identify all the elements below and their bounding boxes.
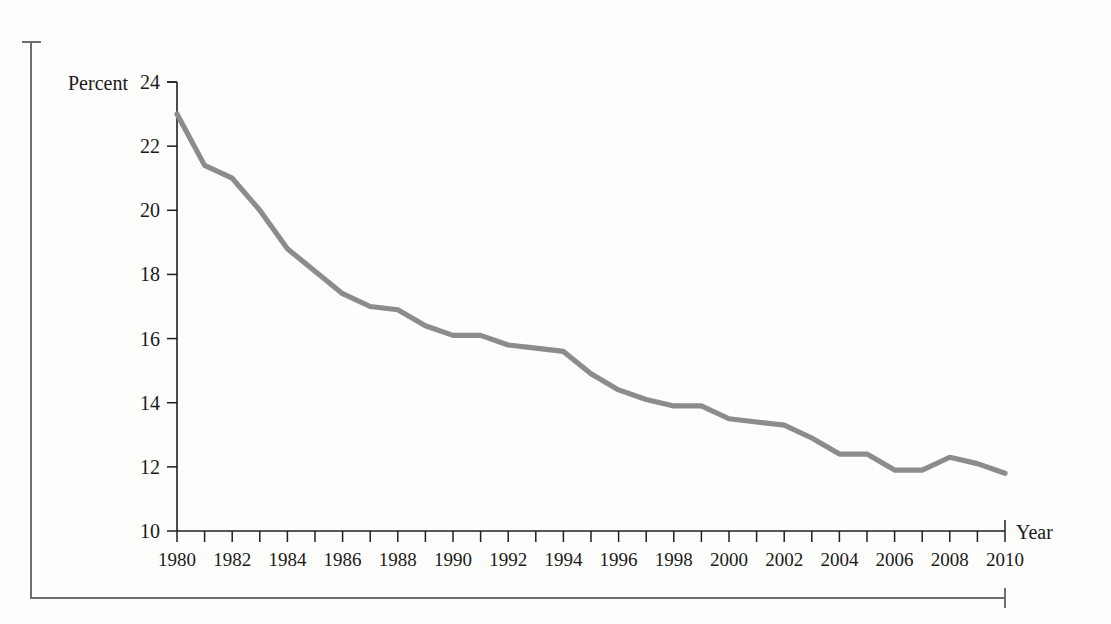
- x-tick-label: 2008: [931, 549, 969, 570]
- x-tick-label: 2000: [710, 549, 748, 570]
- x-tick-label: 1992: [489, 549, 527, 570]
- y-tick-label: 14: [140, 392, 160, 414]
- x-tick-label: 1996: [600, 549, 638, 570]
- y-tick-label: 18: [140, 263, 160, 285]
- line-chart: 1012141618202224 19801982198419861988199…: [0, 0, 1111, 624]
- x-tick-label: 1984: [268, 549, 307, 570]
- data-series-percent: [177, 114, 1005, 473]
- y-axis: 1012141618202224: [140, 71, 177, 542]
- x-tick-label: 1990: [434, 549, 472, 570]
- y-tick-label: 12: [140, 456, 160, 478]
- x-tick-label: 1982: [213, 549, 251, 570]
- x-tick-label: 2010: [986, 549, 1024, 570]
- y-tick-label: 22: [140, 135, 160, 157]
- x-tick-label: 2002: [765, 549, 803, 570]
- x-tick-label: 1998: [655, 549, 693, 570]
- y-tick-label: 24: [140, 71, 160, 93]
- x-tick-label: 1986: [324, 549, 362, 570]
- series-line-percent: [177, 114, 1005, 473]
- x-tick-label: 1988: [379, 549, 417, 570]
- x-tick-label: 1980: [158, 549, 196, 570]
- x-tick-label: 1994: [544, 549, 583, 570]
- y-tick-label: 16: [140, 328, 160, 350]
- y-axis-title: Percent: [68, 72, 128, 94]
- figure-container: 1012141618202224 19801982198419861988199…: [0, 0, 1111, 624]
- x-axis: 1980198219841986198819901992199419961998…: [158, 520, 1024, 570]
- y-tick-label: 20: [140, 199, 160, 221]
- y-tick-label: 10: [140, 520, 160, 542]
- x-tick-label: 2006: [876, 549, 914, 570]
- x-axis-title: Year: [1016, 521, 1053, 543]
- x-tick-label: 2004: [820, 549, 859, 570]
